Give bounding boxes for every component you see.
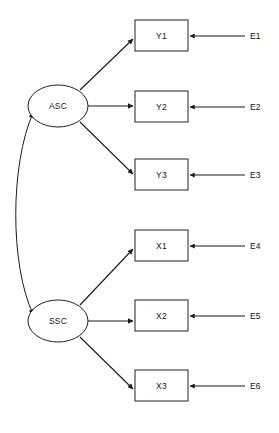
indicator-label-x1: X1 [156, 241, 167, 251]
residual-label-e3: E3 [250, 170, 261, 180]
loading-path-asc-y3 [80, 122, 133, 174]
diagram-canvas: Y1 Y2 Y3 X1 X2 X3 [0, 0, 279, 433]
indicator-node-y3[interactable]: Y3 [135, 159, 188, 190]
loading-path-asc-y1 [80, 39, 133, 90]
indicator-node-x2[interactable]: X2 [135, 300, 188, 331]
indicator-node-x1[interactable]: X1 [135, 230, 188, 261]
residual-label-e5: E5 [250, 311, 261, 321]
latent-label-ssc: SSC [49, 316, 67, 326]
indicator-label-y1: Y1 [156, 31, 167, 41]
indicator-label-y2: Y2 [156, 102, 167, 112]
sem-path-diagram: Y1 Y2 Y3 X1 X2 X3 [0, 0, 279, 433]
indicator-label-x3: X3 [156, 381, 167, 391]
residual-label-e6: E6 [250, 381, 261, 391]
covariance-path-asc-ssc [16, 113, 33, 314]
loading-path-ssc-x3 [80, 337, 133, 389]
indicator-node-y2[interactable]: Y2 [135, 91, 188, 122]
indicator-label-x2: X2 [156, 311, 167, 321]
latent-nodes: ASC SSC [28, 85, 88, 342]
indicator-label-y3: Y3 [156, 170, 167, 180]
latent-label-asc: ASC [49, 101, 67, 111]
indicator-node-y1[interactable]: Y1 [135, 20, 188, 51]
indicator-node-x3[interactable]: X3 [135, 370, 188, 401]
loading-path-ssc-x1 [80, 249, 133, 305]
residual-label-e2: E2 [250, 102, 261, 112]
residual-labels: E1 E2 E3 E4 E5 E6 [250, 31, 261, 391]
residual-paths [190, 36, 245, 386]
residual-label-e4: E4 [250, 241, 261, 251]
latent-node-ssc[interactable]: SSC [28, 300, 88, 342]
latent-node-asc[interactable]: ASC [28, 85, 88, 127]
indicator-nodes: Y1 Y2 Y3 X1 X2 X3 [135, 20, 188, 401]
residual-label-e1: E1 [250, 31, 261, 41]
